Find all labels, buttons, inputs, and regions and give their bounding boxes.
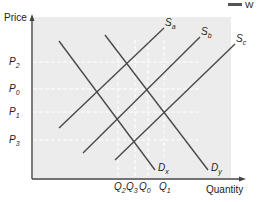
quantity-label-Q3: Q3	[126, 181, 138, 194]
x-axis-title: Quantity	[206, 184, 243, 195]
quantity-label-Q0: Q0	[139, 181, 151, 194]
quantity-label-Q2: Q2	[114, 181, 126, 194]
supply-demand-chart: W Price Quantity P2P0P1P3 Q2Q3Q0Q1 SaSbS…	[0, 0, 258, 202]
price-label-P2: P2	[9, 56, 20, 69]
price-label-P1: P1	[9, 106, 20, 119]
quantity-label-Q1: Q1	[159, 181, 171, 194]
price-tick-labels: P2P0P1P3	[9, 56, 20, 147]
x-axis-arrow-icon	[239, 177, 246, 182]
quantity-tick-labels: Q2Q3Q0Q1	[114, 181, 171, 194]
legend-swatch	[228, 3, 242, 6]
plot-area	[33, 17, 231, 178]
legend-text: W	[245, 0, 254, 10]
curve-label-Sc: Sc	[236, 33, 247, 46]
price-label-P0: P0	[9, 83, 20, 96]
price-label-P3: P3	[9, 134, 20, 147]
y-axis-title: Price	[4, 12, 27, 23]
